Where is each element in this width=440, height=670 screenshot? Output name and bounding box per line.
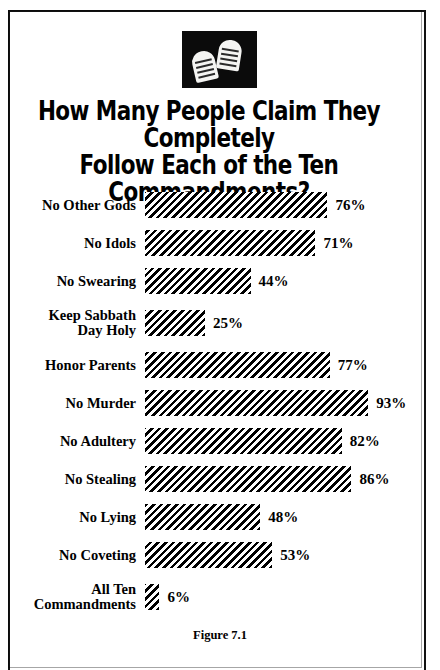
bar-chart: No Other Gods76%No Idols71%No Swearing44…	[0, 186, 440, 620]
bar-wrap: 76%	[145, 192, 327, 218]
bar-wrap: 44%	[145, 268, 251, 294]
bar-wrap: 77%	[145, 352, 330, 378]
bar-value-label: 77%	[338, 357, 368, 374]
bar-row: No Swearing44%	[0, 262, 440, 300]
bar-row: No Idols71%	[0, 224, 440, 262]
bar-value-label: 76%	[335, 197, 365, 214]
bar-value-label: 6%	[167, 589, 190, 606]
bar	[145, 310, 205, 336]
bar-wrap: 53%	[145, 542, 272, 568]
bar-row-label: No Adultery	[18, 434, 136, 449]
bar-value-label: 82%	[350, 433, 380, 450]
bar-row-label: All Ten Commandments	[18, 582, 136, 612]
bar-value-label: 93%	[376, 395, 406, 412]
tablet-right-icon	[216, 38, 243, 71]
bar-wrap: 93%	[145, 390, 368, 416]
bar-row: No Adultery82%	[0, 422, 440, 460]
bar-row-label: No Swearing	[18, 274, 136, 289]
bar-row: No Stealing86%	[0, 460, 440, 498]
bar	[145, 192, 327, 218]
bar-row: No Murder93%	[0, 384, 440, 422]
bar	[145, 352, 330, 378]
bar-row: No Other Gods76%	[0, 186, 440, 224]
bar-wrap: 86%	[145, 466, 351, 492]
bar-wrap: 25%	[145, 310, 205, 336]
bar-row-label: Keep Sabbath Day Holy	[18, 308, 136, 338]
bar	[145, 584, 159, 610]
bar-value-label: 71%	[323, 235, 353, 252]
bar-row-label: No Murder	[18, 396, 136, 411]
bar	[145, 268, 251, 294]
bar	[145, 428, 342, 454]
bar-row: All Ten Commandments6%	[0, 574, 440, 620]
bar	[145, 230, 315, 256]
bar-wrap: 48%	[145, 504, 260, 530]
bar-wrap: 6%	[145, 584, 159, 610]
bar	[145, 466, 351, 492]
stone-tablets-icon	[182, 31, 257, 88]
figure-caption: Figure 7.1	[0, 628, 440, 643]
bar-row: No Coveting53%	[0, 536, 440, 574]
tablet-left-icon	[190, 49, 219, 83]
bar	[145, 542, 272, 568]
bar-row-label: No Idols	[18, 236, 136, 251]
bar	[145, 390, 368, 416]
bar-row-label: Honor Parents	[18, 358, 136, 373]
bar-wrap: 71%	[145, 230, 315, 256]
bar-value-label: 48%	[268, 509, 298, 526]
bar-row: No Lying48%	[0, 498, 440, 536]
bar-row: Honor Parents77%	[0, 346, 440, 384]
bar-row-label: No Stealing	[18, 472, 136, 487]
bar-value-label: 25%	[213, 315, 243, 332]
bar-value-label: 53%	[280, 547, 310, 564]
bar-row: Keep Sabbath Day Holy25%	[0, 300, 440, 346]
bar	[145, 504, 260, 530]
bar-row-label: No Lying	[18, 510, 136, 525]
bar-row-label: No Coveting	[18, 548, 136, 563]
bar-value-label: 86%	[359, 471, 389, 488]
bar-wrap: 82%	[145, 428, 342, 454]
bar-value-label: 44%	[259, 273, 289, 290]
bar-row-label: No Other Gods	[18, 198, 136, 213]
